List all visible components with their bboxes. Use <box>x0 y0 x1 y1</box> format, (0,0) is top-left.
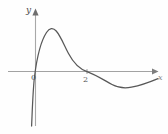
y-axis-arrow-icon <box>32 9 38 16</box>
y-axis-label: y <box>26 6 31 15</box>
curve-path <box>32 29 158 126</box>
x-intercept-label-2: 2 <box>83 76 88 84</box>
figure-canvas <box>0 0 168 134</box>
x-axis-label: x <box>158 74 163 82</box>
origin-label: 0 <box>31 74 36 82</box>
curve-figure: y x 0 2 <box>0 0 168 134</box>
